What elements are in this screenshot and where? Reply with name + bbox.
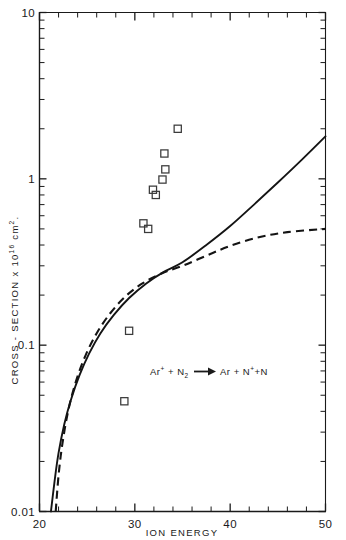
figure-container: 0.010.1110 20304050 ION ENERGY CROSS - S… (0, 0, 346, 540)
annot-reactant-2-sub: 2 (185, 372, 189, 379)
annot-product-1: Ar (220, 366, 231, 377)
y-axis-ticks (40, 13, 47, 512)
data-point-square (159, 176, 166, 183)
data-point-square (126, 327, 133, 334)
y-axis-label-exponent: 16 (8, 244, 15, 254)
x-axis-label: ION ENERGY (146, 527, 219, 538)
x-tick-label: 20 (33, 518, 47, 530)
chart-canvas: 0.010.1110 20304050 ION ENERGY CROSS - S… (0, 0, 346, 540)
y-axis-label-trailing: . (9, 216, 20, 220)
theory-curve-solid (51, 136, 326, 511)
x-tick-label: 30 (128, 518, 142, 530)
reaction-arrow-icon (194, 368, 216, 376)
y-axis-label: CROSS - SECTION x 1016 cm2. (8, 216, 20, 385)
x-axis-ticks (40, 504, 326, 512)
annot-reactant-2: N (177, 366, 184, 377)
annot-reactant-1: Ar (150, 366, 161, 377)
data-point-square (174, 125, 181, 132)
reaction-annotation-products: Ar + N++N (220, 365, 268, 377)
y-tick-label: 0.1 (18, 339, 35, 351)
theory-curve-dashed (56, 229, 326, 512)
data-point-markers (121, 125, 182, 405)
y-axis-label-units: cm (9, 224, 20, 239)
y-axis-label-main: CROSS - SECTION x 10 (9, 253, 20, 384)
y-tick-label: 10 (21, 7, 35, 19)
data-point-square (152, 191, 159, 198)
y-axis-label-group: CROSS - SECTION x 1016 cm2. (8, 216, 20, 385)
annot-product-2: N (243, 366, 250, 377)
reaction-annotation: Ar+ + N2 (150, 365, 189, 379)
annot-product-3: N (261, 366, 268, 377)
x-axis-ticks-top (40, 13, 326, 21)
y-axis-ticks-right (319, 13, 326, 512)
data-point-square (149, 186, 156, 193)
y-tick-label: 0.01 (11, 506, 35, 518)
y-tick-label: 1 (28, 173, 35, 185)
x-tick-label: 40 (223, 518, 237, 530)
data-point-square (161, 150, 168, 157)
x-tick-label: 50 (319, 518, 333, 530)
data-point-square (162, 166, 169, 173)
data-point-square (121, 398, 128, 405)
